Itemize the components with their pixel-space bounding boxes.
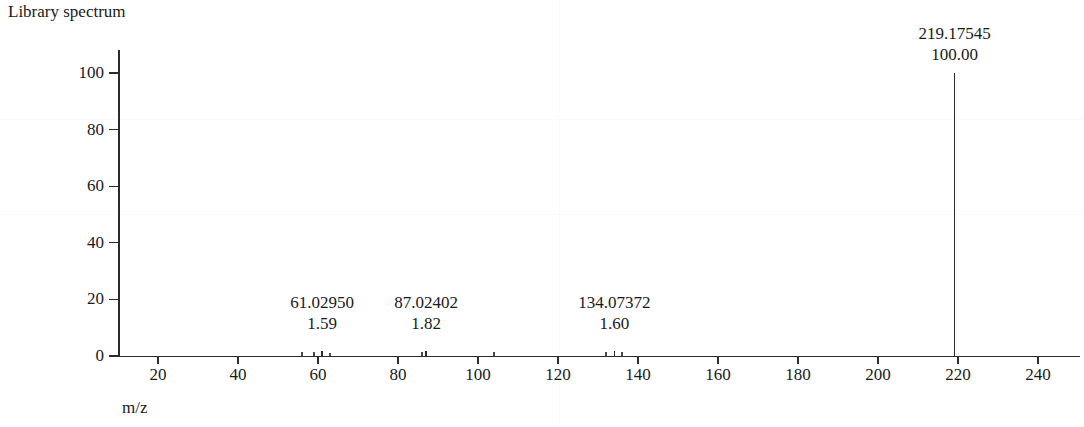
spectrum-peak [614,351,616,356]
x-tick-mark [157,356,158,364]
peak-intensity-label: 1.60 [534,313,694,334]
x-tick-mark [1037,356,1038,364]
minor-peak-stub [493,352,494,356]
y-tick-mark [109,129,118,130]
minor-peak-stub [421,352,422,356]
y-tick-label: 40 [58,234,104,251]
x-tick-label: 100 [448,365,508,385]
spectrum-peak [321,351,323,356]
peak-mz-label: 87.02402 [346,292,506,313]
spectrum-peak [954,73,956,356]
peak-intensity-label: 1.82 [346,313,506,334]
peak-annotation: 87.024021.82 [346,292,506,334]
x-tick-label: 20 [128,365,188,385]
y-tick-label: 0 [58,347,104,364]
x-tick-label: 60 [288,365,348,385]
peak-mz-label: 219.17545 [875,23,1035,44]
x-tick-mark [397,356,398,364]
x-tick-label: 140 [608,365,668,385]
x-tick-label: 240 [1008,365,1068,385]
minor-peak-stub [313,352,314,356]
minor-peak-stub [329,353,330,357]
y-tick-mark [109,299,118,300]
x-tick-mark [877,356,878,364]
y-axis-line [118,50,120,357]
x-tick-label: 180 [768,365,828,385]
x-tick-mark [477,356,478,364]
x-tick-label: 220 [928,365,988,385]
x-tick-mark [557,356,558,364]
y-tick-label: 20 [58,290,104,307]
x-tick-label: 120 [528,365,588,385]
y-tick-label: 60 [58,177,104,194]
page-title: Library spectrum [8,2,126,22]
x-tick-label: 160 [688,365,748,385]
peak-annotation: 134.073721.60 [534,292,694,334]
minor-peak-stub [605,352,606,356]
y-tick-label: 80 [58,121,104,138]
x-tick-label: 200 [848,365,908,385]
y-tick-mark [109,355,118,356]
x-tick-mark [957,356,958,364]
x-tick-mark [797,356,798,364]
x-tick-mark [237,356,238,364]
y-tick-label: 100 [58,64,104,81]
mass-spectrum-plot: Library spectrum Abundance m/z 020406080… [0,0,1084,427]
y-tick-mark [109,186,118,187]
x-tick-mark [317,356,318,364]
peak-mz-label: 134.07372 [534,292,694,313]
x-tick-label: 40 [208,365,268,385]
peak-annotation: 219.17545100.00 [875,23,1035,65]
x-axis-label: m/z [122,398,148,418]
x-tick-mark [637,356,638,364]
y-tick-mark [109,242,118,243]
minor-peak-stub [301,352,302,356]
minor-peak-stub [621,352,622,356]
spectrum-peak [425,351,427,356]
x-tick-mark [717,356,718,364]
x-axis-line [118,356,1080,358]
y-tick-mark [109,72,118,73]
peak-intensity-label: 100.00 [875,44,1035,65]
x-tick-label: 80 [368,365,428,385]
